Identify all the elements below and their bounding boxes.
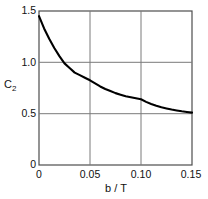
x-tick-label-0: 0 [25,168,53,180]
chart-container: 1.5 1.0 0.5 0 C2 0 0.05 0.10 0.15 b / T [0,0,208,199]
plot-frame [39,11,192,165]
x-tick-label-0.05: 0.05 [72,168,108,180]
x-tick-label-0.15: 0.15 [173,168,208,180]
x-tick-label-0.10: 0.10 [123,168,159,180]
x-axis-title: b / T [79,182,153,194]
